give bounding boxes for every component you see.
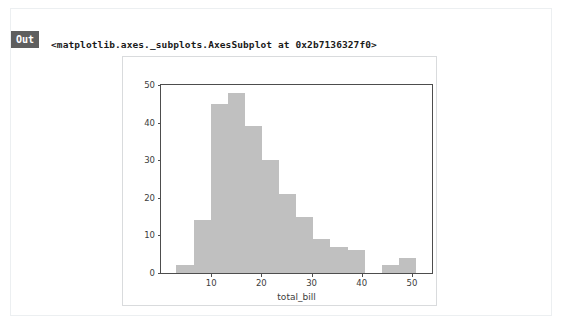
histogram-bar — [228, 93, 245, 273]
x-tick-label: 50 — [407, 278, 418, 288]
x-tick-label: 20 — [256, 278, 267, 288]
histogram-bar — [382, 265, 399, 273]
histogram-bar — [348, 250, 365, 273]
x-tick-label: 10 — [206, 278, 217, 288]
y-tick-label: 0 — [150, 268, 155, 278]
x-tick-mark — [312, 273, 313, 277]
histogram-bar — [245, 126, 262, 273]
x-tick-mark — [362, 273, 363, 277]
y-tick-label: 30 — [144, 155, 155, 165]
histogram-bar — [313, 239, 330, 273]
output-prompt-label: Out — [11, 31, 39, 48]
x-tick-mark — [211, 273, 212, 277]
notebook-output-screen: Out <matplotlib.axes._subplots.AxesSubpl… — [0, 0, 563, 336]
histogram-bars — [161, 85, 432, 273]
y-tick-label: 50 — [144, 80, 155, 90]
histogram-axes: 01020304050 1020304050 — [160, 84, 433, 274]
x-axis-label: total_bill — [160, 292, 433, 302]
y-tick-label: 10 — [144, 230, 155, 240]
histogram-bar — [176, 265, 193, 273]
histogram-bar — [262, 160, 279, 273]
histogram-bar — [330, 247, 347, 273]
y-tick-label: 20 — [144, 193, 155, 203]
histogram-bar — [399, 258, 416, 273]
histogram-bar — [194, 220, 211, 273]
y-tick-mark — [158, 273, 162, 274]
y-tick-mark — [158, 123, 162, 124]
x-tick-mark — [261, 273, 262, 277]
y-tick-mark — [158, 160, 162, 161]
x-tick-mark — [412, 273, 413, 277]
object-repr-text: <matplotlib.axes._subplots.AxesSubplot a… — [51, 39, 377, 50]
output-cell: Out <matplotlib.axes._subplots.AxesSubpl… — [10, 8, 552, 316]
x-tick-label: 30 — [306, 278, 317, 288]
histogram-bar — [211, 104, 228, 273]
histogram-bar — [279, 194, 296, 273]
matplotlib-figure: 01020304050 1020304050 total_bill — [122, 56, 437, 306]
y-tick-mark — [158, 235, 162, 236]
y-tick-mark — [158, 198, 162, 199]
x-tick-label: 40 — [356, 278, 367, 288]
histogram-bar — [296, 217, 313, 273]
y-tick-label: 40 — [144, 118, 155, 128]
y-tick-mark — [158, 85, 162, 86]
